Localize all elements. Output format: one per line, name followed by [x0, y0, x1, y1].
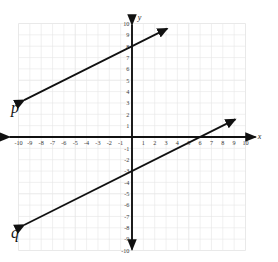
y-tick-label: 9 — [126, 31, 129, 38]
y-tick-label: 6 — [126, 65, 129, 72]
x-tick-label: 8 — [221, 139, 224, 146]
graph-canvas: -10-9-8-7-6-5-4-3-2-11234567891010987654… — [0, 0, 278, 262]
axes — [10, 25, 256, 250]
plotted-line-p — [24, 29, 167, 101]
y-tick-label: 1 — [126, 122, 129, 129]
x-tick-label: -10 — [14, 139, 22, 146]
x-tick-label: 9 — [233, 139, 236, 146]
y-tick-label: -2 — [124, 156, 129, 163]
x-tick-label: 3 — [165, 139, 168, 146]
y-tick-label: -6 — [124, 201, 129, 208]
y-tick-label: -10 — [121, 247, 129, 254]
x-tick-label: -4 — [84, 139, 89, 146]
coordinate-graph: -10-9-8-7-6-5-4-3-2-11234567891010987654… — [0, 0, 278, 262]
y-axis-label: y — [137, 13, 142, 22]
x-tick-label: -7 — [50, 139, 55, 146]
y-tick-label: -9 — [124, 235, 129, 242]
y-tick-label: 5 — [126, 77, 129, 84]
y-tick-label: 3 — [126, 99, 129, 106]
y-tick-label: 7 — [126, 54, 129, 61]
x-tick-label: -8 — [39, 139, 44, 146]
x-tick-label: 2 — [153, 139, 156, 146]
x-axis-label: x — [257, 132, 262, 141]
y-tick-label: 4 — [126, 88, 129, 95]
x-tick-label: 6 — [199, 139, 202, 146]
x-tick-label: -9 — [27, 139, 32, 146]
y-tick-label: -4 — [124, 179, 129, 186]
y-tick-label: -1 — [124, 145, 129, 152]
y-tick-label: -5 — [124, 190, 129, 197]
plotted-line-q — [24, 119, 235, 225]
x-tick-label: -5 — [73, 139, 78, 146]
y-tick-label: -8 — [124, 224, 129, 231]
y-tick-label: 2 — [126, 111, 129, 118]
line-label-p: p — [10, 99, 19, 117]
x-tick-label: -2 — [107, 139, 112, 146]
x-tick-label: 1 — [142, 139, 145, 146]
x-tick-label: -3 — [95, 139, 100, 146]
y-tick-label: -7 — [124, 213, 129, 220]
x-tick-label: 7 — [210, 139, 213, 146]
x-tick-label: 4 — [176, 139, 179, 146]
x-tick-label: -1 — [118, 139, 123, 146]
line-label-q: q — [11, 224, 19, 242]
y-tick-label: 10 — [123, 20, 129, 27]
x-tick-label: 10 — [242, 139, 248, 146]
line-labels: pq — [10, 99, 19, 242]
plotted-lines — [24, 29, 235, 225]
x-tick-label: -6 — [61, 139, 66, 146]
